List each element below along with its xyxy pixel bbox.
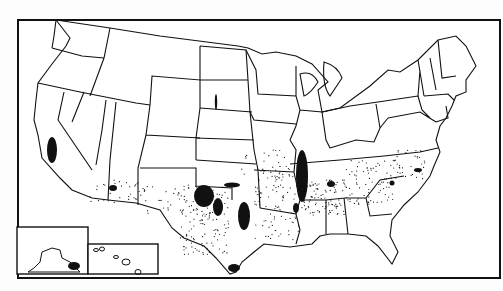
hawaii-inset xyxy=(88,244,158,274)
us-map-svg xyxy=(0,0,503,291)
map-frame xyxy=(18,20,500,278)
distribution-map xyxy=(0,0,503,291)
